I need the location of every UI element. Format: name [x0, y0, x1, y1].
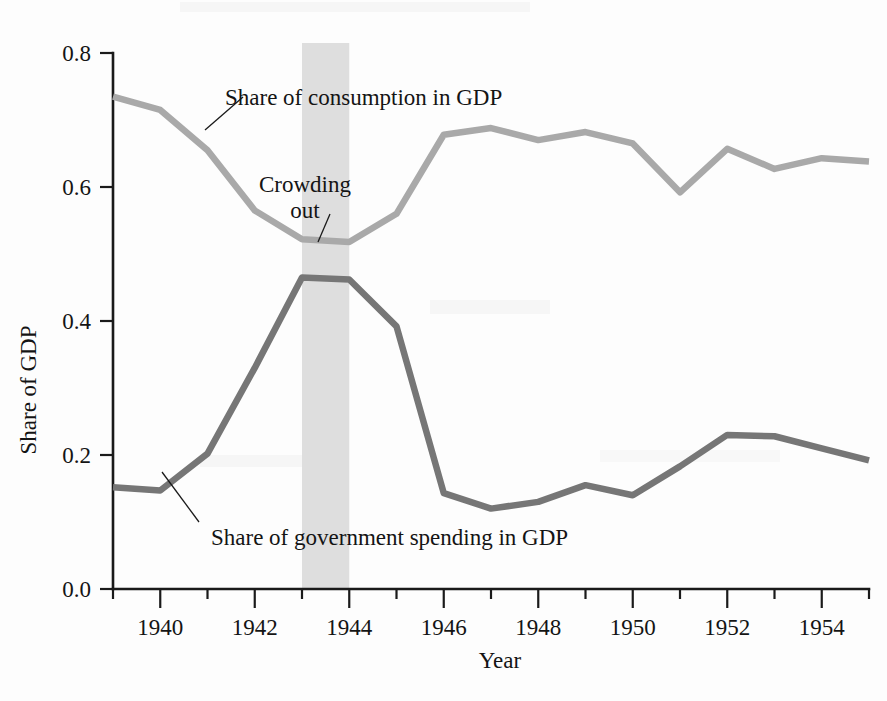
x-axis-ticks [113, 589, 869, 608]
x-tick-label: 1954 [799, 615, 846, 640]
y-tick-label: 0.2 [62, 443, 91, 468]
x-tick-label: 1952 [704, 615, 750, 640]
x-tick-label: 1948 [515, 615, 561, 640]
government-spending-leader-line [162, 472, 199, 522]
crowding-out-label-line2: out [290, 198, 320, 223]
consumption-series-label: Share of consumption in GDP [225, 85, 502, 110]
x-tick-label: 1950 [610, 615, 656, 640]
x-tick-label: 1946 [421, 615, 467, 640]
line-chart: 0.00.20.40.60.8 194019421944194619481950… [0, 0, 887, 701]
x-tick-label: 1942 [232, 615, 278, 640]
government-spending-series-label: Share of government spending in GDP [211, 525, 568, 550]
y-axis-tick-labels: 0.00.20.40.60.8 [62, 41, 91, 602]
chart-figure: 0.00.20.40.60.8 194019421944194619481950… [0, 0, 887, 701]
y-tick-label: 0.8 [62, 41, 91, 66]
x-axis-tick-labels: 19401942194419461948195019521954 [137, 615, 845, 640]
x-axis-title: Year [479, 648, 522, 673]
scan-artifacts [180, 2, 780, 467]
x-tick-label: 1940 [137, 615, 183, 640]
crowding-out-label-line1: Crowding [259, 172, 352, 197]
series-line-consumption [113, 97, 869, 242]
y-axis-title: Share of GDP [16, 325, 41, 454]
y-axis-ticks [100, 53, 113, 589]
y-tick-label: 0.0 [62, 577, 91, 602]
y-tick-label: 0.4 [62, 309, 91, 334]
y-tick-label: 0.6 [62, 175, 91, 200]
x-tick-label: 1944 [326, 615, 373, 640]
crowding-out-band [302, 43, 349, 589]
